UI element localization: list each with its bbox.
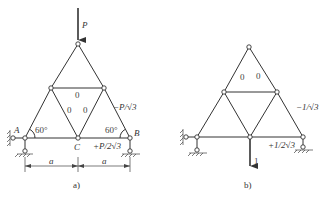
dimension-label-left: a	[49, 156, 54, 166]
truss-a: P	[7, 8, 140, 190]
load-p-label: P	[81, 20, 88, 30]
unit-load-label: 1	[254, 156, 259, 166]
node-label-c: C	[74, 142, 81, 152]
node-label-b: B	[134, 128, 140, 138]
truss-b: 1 0 0 −1/√3 +1/2√3 b)	[180, 45, 319, 190]
zero-force-label: 0	[83, 105, 88, 115]
dimension-label-right: a	[102, 156, 107, 166]
angle-label-right: 60°	[105, 125, 118, 135]
caption-b: b)	[244, 180, 252, 190]
force-label-upper-right: −1/√3	[296, 102, 319, 112]
node-label-a: A	[13, 125, 20, 135]
force-label-upper-right: −P/√3	[113, 102, 137, 112]
zero-force-label: 0	[67, 105, 72, 115]
dimension-lines	[25, 157, 130, 172]
support-b	[121, 138, 140, 157]
support-left-b	[180, 129, 207, 156]
force-label-bottom-chord: +1/2√3	[268, 140, 296, 150]
support-a	[7, 130, 33, 157]
force-label-bottom-chord: +P/2√3	[93, 141, 122, 151]
angle-arc-right	[120, 130, 125, 139]
truss-b-members	[197, 47, 303, 137]
zero-force-label: 0	[75, 90, 80, 100]
truss-figure: P	[0, 0, 319, 200]
caption-a: a)	[73, 180, 80, 190]
angle-label-left: 60°	[35, 125, 48, 135]
zero-force-label: 0	[256, 71, 261, 81]
zero-force-label: 0	[240, 72, 245, 82]
